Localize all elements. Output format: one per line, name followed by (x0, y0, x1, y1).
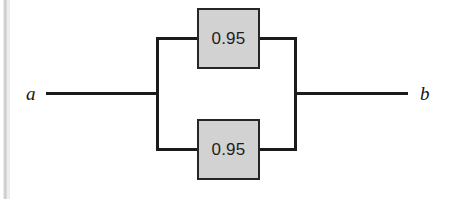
reliability-block-diagram: a b 0.95 0.95 (0, 0, 450, 199)
lower-branch-left-wire (156, 148, 200, 151)
output-lead-wire (294, 92, 408, 95)
component-block-lower-label: 0.95 (212, 141, 246, 158)
page-edge-artifact-secondary (8, 0, 10, 199)
upper-branch-right-wire (257, 37, 297, 40)
output-terminal-label: b (420, 84, 430, 103)
component-block-upper: 0.95 (197, 8, 260, 69)
input-lead-wire (46, 92, 159, 95)
lower-branch-right-wire (257, 148, 297, 151)
component-block-lower: 0.95 (197, 119, 260, 180)
input-terminal-label: a (26, 84, 36, 103)
upper-branch-left-wire (156, 37, 200, 40)
component-block-upper-label: 0.95 (212, 30, 246, 47)
left-branch-bus-wire (156, 37, 159, 151)
